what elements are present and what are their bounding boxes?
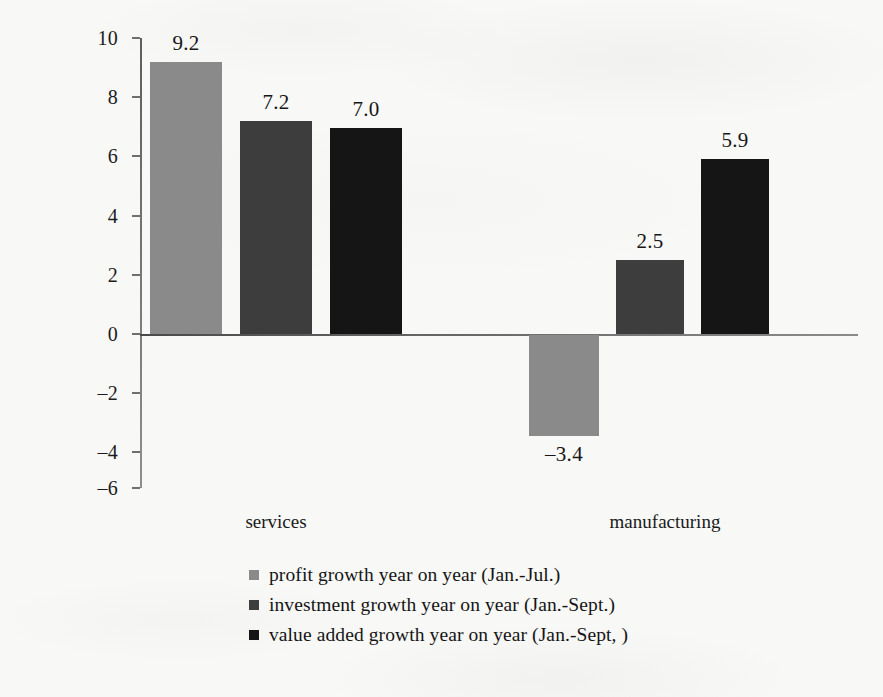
y-tick-label: 2	[76, 265, 118, 285]
y-tick-label: 6	[76, 146, 118, 166]
plot-area: 10 8 6 4 2 0 –2 –4	[0, 0, 883, 540]
legend-swatch-icon	[249, 600, 259, 610]
zero-baseline	[140, 334, 858, 336]
y-tick-minus-4: –4	[0, 442, 140, 462]
y-tick-8: 8	[0, 87, 140, 107]
bar-value-label: 7.0	[330, 99, 402, 120]
bar-manufacturing-profit	[529, 335, 599, 436]
bar-services-profit	[150, 62, 222, 334]
bar-value-label: 7.2	[240, 92, 312, 113]
y-tick-label: 0	[76, 324, 118, 344]
legend-item-profit-growth: profit growth year on year (Jan.-Jul.)	[249, 560, 769, 590]
y-axis-line	[140, 38, 142, 488]
y-tick-mark	[132, 37, 140, 39]
y-tick-label: –4	[76, 442, 118, 462]
y-tick-mark	[132, 487, 140, 489]
bar-manufacturing-investment	[616, 260, 684, 334]
legend-swatch-icon	[249, 570, 259, 580]
bar-value-label: 9.2	[150, 33, 222, 54]
y-tick-mark	[132, 451, 140, 453]
y-tick-0: 0	[0, 324, 140, 344]
category-label-manufacturing: manufacturing	[570, 512, 760, 531]
y-tick-label: 4	[76, 206, 118, 226]
bar-value-label: 5.9	[701, 130, 769, 151]
category-label-services: services	[196, 512, 356, 531]
y-tick-mark	[132, 274, 140, 276]
y-tick-6: 6	[0, 146, 140, 166]
bar-manufacturing-value-added	[701, 159, 769, 334]
y-tick-label: 8	[76, 87, 118, 107]
bar-services-investment	[240, 121, 312, 334]
y-tick-minus-6: –6	[0, 478, 140, 498]
y-tick-mark	[132, 392, 140, 394]
legend: profit growth year on year (Jan.-Jul.) i…	[249, 560, 769, 650]
y-tick-mark	[132, 215, 140, 217]
y-tick-4: 4	[0, 206, 140, 226]
legend-swatch-icon	[249, 630, 259, 640]
legend-item-value-added-growth: value added growth year on year (Jan.-Se…	[249, 620, 769, 650]
bar-value-label: –3.4	[529, 444, 599, 465]
bar-value-label: 2.5	[616, 231, 684, 252]
y-tick-mark	[132, 96, 140, 98]
bar-chart-figure: 10 8 6 4 2 0 –2 –4	[0, 0, 883, 697]
legend-label: profit growth year on year (Jan.-Jul.)	[269, 565, 560, 585]
y-tick-minus-2: –2	[0, 383, 140, 403]
legend-label: value added growth year on year (Jan.-Se…	[269, 625, 628, 645]
y-tick-2: 2	[0, 265, 140, 285]
y-tick-label: –6	[76, 478, 118, 498]
legend-item-investment-growth: investment growth year on year (Jan.-Sep…	[249, 590, 769, 620]
y-tick-mark	[132, 155, 140, 157]
legend-label: investment growth year on year (Jan.-Sep…	[269, 595, 615, 615]
y-tick-10: 10	[0, 28, 140, 48]
y-tick-label: 10	[76, 28, 118, 48]
y-tick-label: –2	[76, 383, 118, 403]
y-tick-mark	[132, 333, 140, 335]
bar-services-value-added	[330, 128, 402, 334]
